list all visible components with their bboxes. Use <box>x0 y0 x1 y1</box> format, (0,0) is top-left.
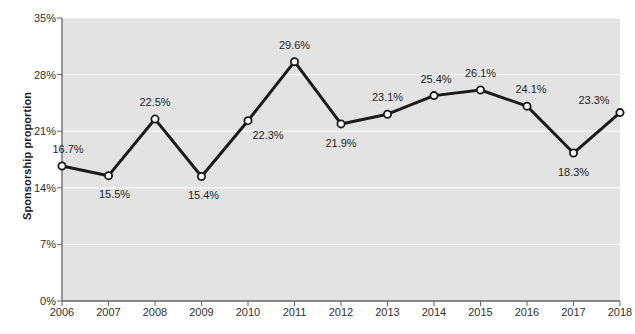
x-tick-label: 2017 <box>551 306 597 318</box>
x-tick-label: 2008 <box>132 306 178 318</box>
y-tick-label: 7% <box>14 238 56 250</box>
x-tick-label: 2013 <box>365 306 411 318</box>
x-tick-label: 2018 <box>597 306 635 318</box>
data-point-label: 21.9% <box>325 137 356 149</box>
y-tick-label: 14% <box>14 182 56 194</box>
y-axis-ticks <box>57 18 62 301</box>
data-point-marker <box>58 162 65 169</box>
data-point-label: 15.4% <box>188 189 219 201</box>
data-point-label: 15.5% <box>99 188 130 200</box>
data-point-marker <box>105 172 112 179</box>
data-point-marker <box>430 92 437 99</box>
y-tick-label: 21% <box>14 125 56 137</box>
data-point-label: 23.3% <box>578 94 609 106</box>
x-tick-label: 2006 <box>39 306 85 318</box>
x-tick-label: 2007 <box>86 306 132 318</box>
data-point-label: 25.4% <box>420 73 451 85</box>
x-tick-label: 2011 <box>272 306 318 318</box>
data-point-marker <box>291 58 298 65</box>
data-point-marker <box>384 111 391 118</box>
y-tick-label: 28% <box>14 69 56 81</box>
data-point-label: 18.3% <box>558 166 589 178</box>
data-point-label: 22.3% <box>252 129 283 141</box>
data-point-marker <box>477 86 484 93</box>
x-tick-label: 2009 <box>179 306 225 318</box>
line-chart: Sponsorship proportion 0%7%14%21%28%35% … <box>0 0 635 334</box>
data-point-marker <box>616 109 623 116</box>
data-point-label: 16.7% <box>52 143 83 155</box>
data-point-marker <box>523 103 530 110</box>
data-point-label: 22.5% <box>139 96 170 108</box>
x-tick-label: 2015 <box>458 306 504 318</box>
data-point-label: 24.1% <box>515 83 546 95</box>
chart-canvas <box>0 0 635 334</box>
y-axis-tick-labels: 0%7%14%21%28%35% <box>0 0 56 334</box>
data-point-marker <box>570 149 577 156</box>
y-tick-label: 35% <box>14 12 56 24</box>
data-point-label: 29.6% <box>279 39 310 51</box>
x-tick-label: 2010 <box>225 306 271 318</box>
data-point-marker <box>244 117 251 124</box>
plot-background <box>62 18 620 301</box>
x-tick-label: 2016 <box>504 306 550 318</box>
data-point-label: 26.1% <box>465 67 496 79</box>
x-tick-label: 2014 <box>411 306 457 318</box>
data-point-label: 23.1% <box>372 91 403 103</box>
data-point-marker <box>337 120 344 127</box>
x-tick-label: 2012 <box>318 306 364 318</box>
data-point-marker <box>198 173 205 180</box>
data-point-marker <box>151 115 158 122</box>
